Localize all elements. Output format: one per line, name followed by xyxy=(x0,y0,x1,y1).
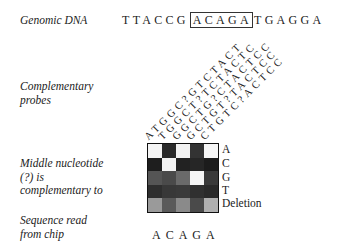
grid-cell xyxy=(190,158,204,172)
grid-cell xyxy=(190,144,204,158)
row-label-deletion: Deletion xyxy=(222,197,262,210)
middle-nucleotide-label: Middle nucleotide (?) is complementary t… xyxy=(20,157,103,198)
row-label-g: G xyxy=(222,171,230,184)
grid-cell xyxy=(176,171,190,185)
grid-cell xyxy=(204,171,218,185)
grid-cell xyxy=(190,171,204,185)
grid-cell xyxy=(148,185,162,199)
read-label-line1: Sequence read xyxy=(20,214,87,228)
read-label-line2: from chip xyxy=(20,228,87,242)
row-label-a: A xyxy=(222,143,230,156)
grid-cell xyxy=(162,144,176,158)
genomic-prefix: TTACCG xyxy=(122,13,189,27)
grid-cell xyxy=(176,198,190,212)
grid-cell xyxy=(176,185,190,199)
grid-cell xyxy=(190,198,204,212)
grid-cell xyxy=(148,158,162,172)
grid-cell xyxy=(162,171,176,185)
grid-cell xyxy=(176,144,190,158)
grid-cell xyxy=(176,158,190,172)
grid-cell xyxy=(204,198,218,212)
grid-cell xyxy=(190,185,204,199)
grid-cell xyxy=(148,144,162,158)
middle-label-line1: Middle nucleotide xyxy=(20,157,103,171)
grid-cell xyxy=(162,185,176,199)
grid-cell xyxy=(204,185,218,199)
complementary-probes-label: Complementary probes xyxy=(20,80,93,107)
grid-cell xyxy=(204,144,218,158)
genomic-sequence: TTACCGACAGATGAGGA xyxy=(122,13,324,28)
chip-intensity-grid xyxy=(147,143,219,213)
grid-cell xyxy=(204,158,218,172)
grid-cell xyxy=(148,198,162,212)
middle-label-line3: complementary to xyxy=(20,184,103,198)
row-label-t: T xyxy=(222,184,229,197)
grid-cell xyxy=(148,171,162,185)
genomic-dna-label: Genomic DNA xyxy=(20,14,87,28)
genomic-suffix: TGAGGA xyxy=(254,13,324,27)
probes-label-line2: probes xyxy=(20,94,93,108)
highlighted-region: ACAGA xyxy=(190,12,253,28)
probes-label-line1: Complementary xyxy=(20,80,93,94)
sequence-read-label: Sequence read from chip xyxy=(20,214,87,241)
row-label-c: C xyxy=(222,157,230,170)
sequence-read-value: ACAGA xyxy=(152,228,220,243)
grid-cell xyxy=(162,158,176,172)
grid-cell xyxy=(162,198,176,212)
middle-label-line2: (?) is xyxy=(20,171,103,185)
